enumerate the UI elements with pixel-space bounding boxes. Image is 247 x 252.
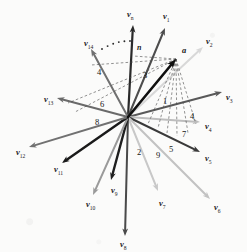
sector-number-8: 8 — [95, 118, 99, 127]
vector-label-subscript: 8 — [124, 245, 127, 251]
sector-number-7: 7 — [182, 130, 186, 139]
vector-label-v3: v3 — [226, 93, 233, 104]
vector-label-subscript: 6 — [218, 208, 221, 214]
vector-label-v12: v12 — [16, 148, 25, 159]
vector-label-subscript: 12 — [20, 153, 26, 159]
vector-label-subscript: 2 — [210, 42, 213, 48]
vector-label-subscript: n — [131, 15, 134, 21]
arc-dot — [112, 43, 114, 45]
vector-label-subscript: 14 — [88, 44, 94, 50]
vector-label-subscript: 3 — [230, 98, 233, 104]
arc-dot — [101, 48, 103, 50]
sector-number-2: 3 — [143, 71, 147, 80]
dashed-ray-5 — [176, 59, 188, 133]
sector-number-5: 5 — [169, 145, 173, 154]
vector-label-v1: v1 — [163, 12, 170, 23]
vector-label-vn: vn — [127, 10, 134, 21]
sector-number-3: 4 — [97, 68, 101, 77]
vector-label-v9: v9 — [111, 186, 118, 197]
point-a-label: a — [182, 46, 186, 55]
vector-label-subscript: 11 — [58, 170, 63, 176]
dashed-construction-lines — [68, 56, 196, 136]
vector-label-subscript: 13 — [48, 100, 54, 106]
vector-label-v7: v7 — [159, 199, 166, 210]
arc-dot — [107, 45, 109, 47]
vector-a-arrow — [128, 59, 176, 117]
arc-dot — [118, 41, 120, 43]
vector-label-subscript: 4 — [209, 127, 212, 133]
vector-arrows-group — [29, 25, 222, 236]
vector-label-subscript: 9 — [115, 191, 118, 197]
vector-label-v10: v10 — [86, 200, 95, 211]
dotted-arc — [101, 40, 131, 50]
vector-label-v13: v13 — [44, 95, 53, 106]
vector-label-v5: v5 — [205, 154, 212, 165]
vector-label-subscript: 10 — [90, 205, 96, 211]
dashed-ray-7 — [91, 59, 176, 65]
sector-number-0: 1 — [163, 97, 167, 106]
angle-n-label: n — [137, 44, 141, 52]
sector-number-4: 4 — [190, 112, 194, 121]
sector-number-9: 9 — [156, 151, 160, 160]
dashed-ray-10 — [133, 56, 176, 59]
vector-label-v14: v14 — [84, 39, 93, 50]
vector-label-v6: v6 — [214, 203, 221, 214]
vector-label-v2: v2 — [206, 37, 213, 48]
vector-fan-diagram: vnv1v2v3v4v5v6v7v8v9v10v11v12v13v14 1234… — [0, 0, 247, 252]
sector-number-6: 6 — [100, 100, 104, 109]
vector-label-subscript: 1 — [167, 17, 170, 23]
arc-dot — [129, 40, 131, 42]
arc-dot — [123, 40, 125, 42]
vector-label-v8: v8 — [120, 240, 127, 251]
sector-number-1: 2 — [137, 148, 141, 157]
vector-label-v4: v4 — [205, 122, 212, 133]
vector-label-subscript: 7 — [163, 204, 166, 210]
vector-label-subscript: 5 — [209, 159, 212, 165]
vector-label-v11: v11 — [54, 165, 63, 176]
